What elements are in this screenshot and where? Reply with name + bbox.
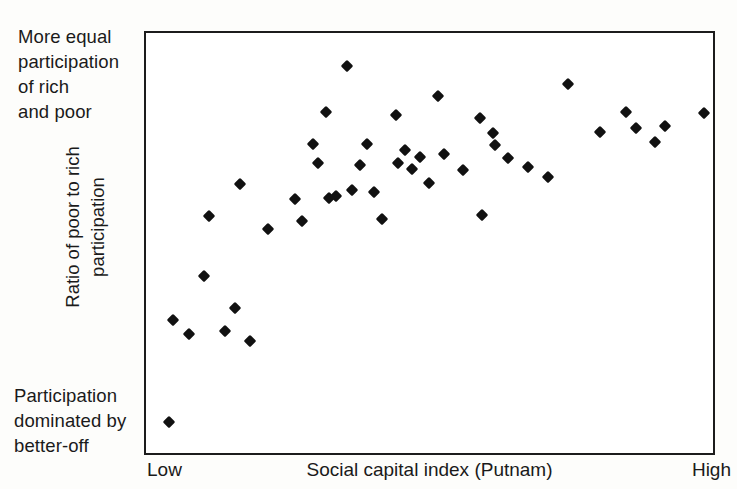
data-point xyxy=(474,112,487,125)
data-point xyxy=(234,178,247,191)
data-point xyxy=(203,210,216,223)
data-point xyxy=(244,335,257,348)
data-point xyxy=(620,106,633,119)
data-point xyxy=(698,107,711,120)
data-point xyxy=(361,138,374,151)
y-axis-label: Ratio of poor to rich participation xyxy=(60,97,110,357)
data-point xyxy=(198,270,211,283)
data-point xyxy=(262,223,275,236)
data-point xyxy=(392,157,405,170)
data-point xyxy=(320,106,333,119)
data-point xyxy=(502,152,515,165)
plot-frame xyxy=(144,31,715,455)
data-point xyxy=(476,209,489,222)
data-point xyxy=(489,139,502,152)
data-point xyxy=(376,213,389,226)
data-point xyxy=(296,215,309,228)
data-point xyxy=(406,163,419,176)
data-point xyxy=(167,314,180,327)
data-point xyxy=(312,157,325,170)
data-point xyxy=(399,144,412,157)
data-point xyxy=(432,90,445,103)
data-point xyxy=(438,148,451,161)
data-point xyxy=(368,186,381,199)
data-point xyxy=(219,325,232,338)
data-point xyxy=(183,328,196,341)
data-point xyxy=(659,120,672,133)
data-point xyxy=(522,161,535,174)
chart-page: More equal participation of rich and poo… xyxy=(0,0,737,489)
data-point xyxy=(630,122,643,135)
data-point xyxy=(307,138,320,151)
data-point xyxy=(487,127,500,140)
data-point xyxy=(346,184,359,197)
data-point xyxy=(649,136,662,149)
data-point xyxy=(423,177,436,190)
data-point xyxy=(594,126,607,139)
scatter-points-layer xyxy=(146,33,713,453)
data-point xyxy=(354,159,367,172)
data-point xyxy=(390,109,403,122)
data-point xyxy=(457,164,470,177)
data-point xyxy=(229,302,242,315)
data-point xyxy=(414,151,427,164)
x-axis-high-label: High xyxy=(692,459,731,481)
y-axis-bottom-annotation: Participation dominated by better-off xyxy=(14,383,144,458)
data-point xyxy=(289,193,302,206)
data-point xyxy=(163,416,176,429)
data-point xyxy=(542,171,555,184)
x-axis-label: Social capital index (Putnam) xyxy=(144,459,715,481)
data-point xyxy=(562,78,575,91)
data-point xyxy=(341,60,354,73)
